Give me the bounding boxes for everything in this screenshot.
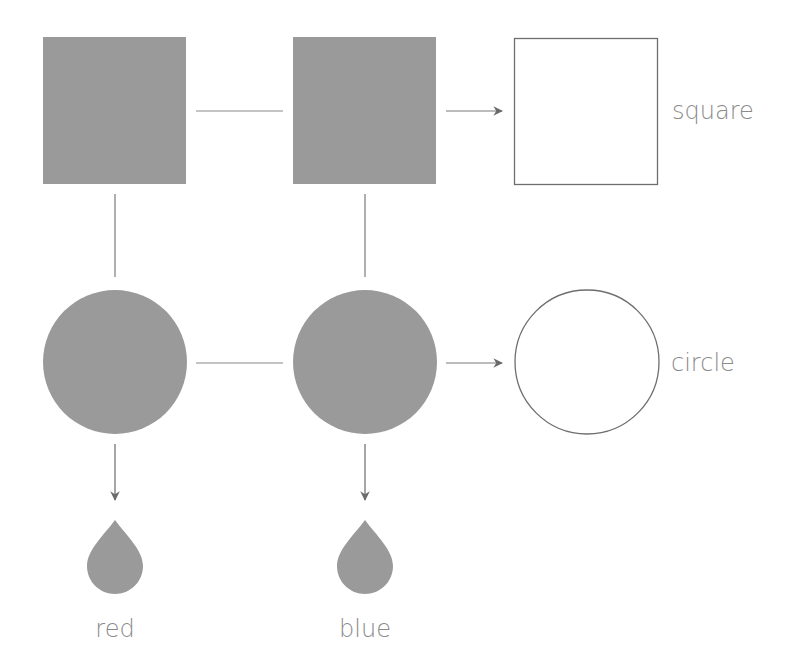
filled-circle-blue	[293, 290, 437, 434]
label-red: red	[95, 615, 134, 643]
drop-icon	[337, 520, 393, 594]
drop-icon	[87, 520, 143, 594]
filled-square-blue	[293, 37, 436, 184]
outline-circle	[515, 290, 659, 434]
label-square: square	[672, 97, 754, 125]
shape-color-diagram: square circle red blue	[0, 0, 797, 667]
label-blue: blue	[339, 615, 391, 643]
filled-circle-red	[43, 290, 187, 434]
outline-square	[515, 39, 658, 185]
label-circle: circle	[671, 349, 735, 377]
filled-square-red	[43, 37, 186, 184]
